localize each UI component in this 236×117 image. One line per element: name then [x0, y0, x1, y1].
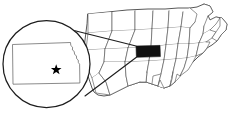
us-map-group: [84, 4, 227, 96]
locator-map-figure: [0, 0, 236, 117]
highlighted-state-kansas: [136, 45, 160, 57]
locator-map-svg: [0, 0, 236, 117]
inset-state-outline-kansas: [13, 43, 80, 85]
inset-callout-group: [3, 21, 90, 108]
